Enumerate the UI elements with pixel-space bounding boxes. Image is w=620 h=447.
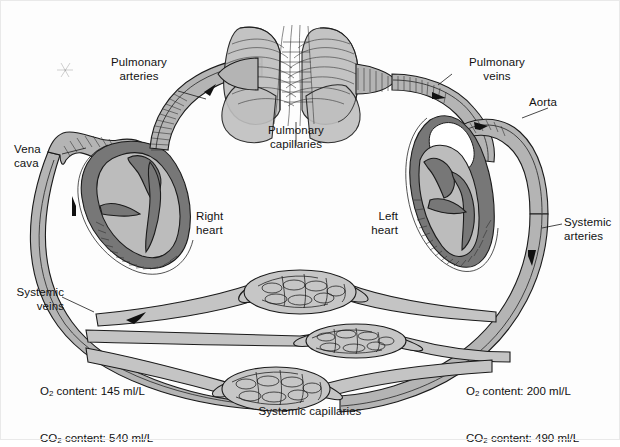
venous-co2-line: CO2 content: 540 ml/L — [40, 431, 153, 447]
label-aorta: Aorta — [529, 96, 557, 110]
label-right-heart: Right heart — [196, 210, 223, 237]
label-systemic-arteries: Systemic arteries — [564, 216, 611, 243]
pulmonary-vein-outlet — [356, 64, 396, 94]
systemic-capillary-bed-upper — [96, 270, 496, 326]
venous-o2-line: O2 content: 145 ml/L — [40, 384, 153, 401]
arterial-co2-line: CO2 content: 490 ml/L — [466, 431, 579, 447]
venous-gas-content: O2 content: 145 ml/L CO2 content: 540 ml… — [40, 354, 153, 447]
arterial-o2-line: O2 content: 200 ml/L — [466, 384, 579, 401]
label-left-heart: Left heart — [336, 210, 398, 237]
label-systemic-veins: Systemic veins — [8, 286, 64, 313]
label-vena-cava: Vena cava — [14, 143, 41, 170]
label-pulmonary-arteries: Pulmonary arteries — [95, 56, 183, 83]
label-pulmonary-capillaries: Pulmonary capillaries — [250, 124, 342, 151]
label-pulmonary-veins: Pulmonary veins — [455, 56, 539, 83]
label-systemic-capillaries: Systemic capillaries — [228, 405, 392, 419]
arterial-gas-content: O2 content: 200 ml/L CO2 content: 490 ml… — [466, 354, 579, 447]
vena-cava-flow-arrow — [72, 196, 76, 216]
right-heart — [78, 141, 193, 274]
scan-artifact — [57, 63, 73, 77]
